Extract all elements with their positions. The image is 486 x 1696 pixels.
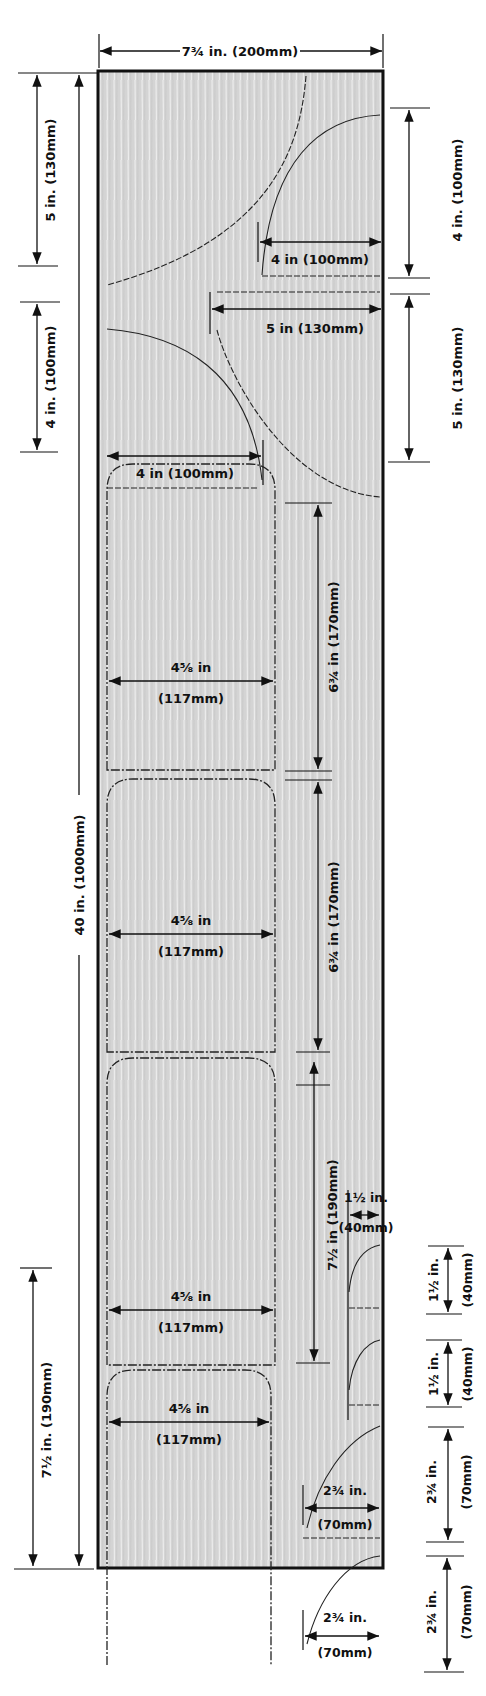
panel-width-top-label: 4⅝ in [171,660,212,675]
panel-width-top-label: 4⅝ in [171,1289,212,1304]
board-width-dimension: 7¾ in. (200mm) [99,34,383,68]
left-dim-5in-label: 5 in. (130mm) [43,119,58,222]
right-dim-medium-1-bottom: (70mm) [459,1455,474,1510]
board-width-label: 7¾ in. (200mm) [182,44,298,59]
right-dim-4in-label: 4 in. (100mm) [450,139,465,242]
panel-width-bottom-label: (117mm) [158,691,224,706]
small-arc-width-top: 1½ in. [344,1190,388,1205]
diagram-canvas: 7¾ in. (200mm) 4 in (100mm) 5 in (130mm)… [0,0,486,1696]
cutting-diagram: 7¾ in. (200mm) 4 in (100mm) 5 in (130mm)… [0,0,486,1696]
right-dimensions: 4 in. (100mm) 5 in. (130mm) 1½ in. (40mm… [388,108,475,1672]
small-arc-width-bottom: (40mm) [339,1220,394,1235]
panel-width-bottom-label: (117mm) [156,1432,222,1447]
panel-width-bottom-label: (117mm) [158,944,224,959]
right-dim-small-2-bottom: (40mm) [460,1347,475,1402]
arc1-radius-label: 4 in (100mm) [271,252,369,267]
left-dim-7-5in-label: 7½ in. (190mm) [39,1362,54,1478]
panel-height-1-label: 6¾ in (170mm) [326,581,341,692]
left-dim-4in-label: 4 in. (100mm) [43,326,58,429]
left-dimensions: 5 in. (130mm) 4 in. (100mm) 40 in. (1000… [14,73,98,1569]
panel-height-2-label: 6¾ in (170mm) [326,861,341,972]
right-dim-medium-1-top: 2¾ in. [424,1460,439,1504]
right-dim-small-2-top: 1½ in. [426,1352,441,1396]
arc2-radius-label: 5 in (130mm) [266,321,364,336]
right-dim-medium-2-top: 2¾ in. [424,1590,439,1634]
board [98,71,383,1568]
medium-arc-1-width-bottom: (70mm) [318,1517,373,1532]
right-dim-5in-label: 5 in. (130mm) [450,327,465,430]
panel-width-top-label: 4⅝ in [171,913,212,928]
medium-arc-2-width-bottom: (70mm) [318,1645,373,1660]
medium-arc-1-width-top: 2¾ in. [323,1483,367,1498]
right-dim-small-1-bottom: (40mm) [460,1253,475,1308]
board-length-label: 40 in. (1000mm) [72,815,87,936]
board-surface [98,71,383,1568]
panel-height-3-label: 7½ in (190mm) [325,1159,340,1270]
panel-width-top-label: 4⅝ in [169,1401,210,1416]
arc3-radius-label: 4 in (100mm) [136,466,234,481]
right-dim-small-1-top: 1½ in. [426,1258,441,1302]
right-dim-medium-2-bottom: (70mm) [459,1585,474,1640]
panel-width-bottom-label: (117mm) [158,1320,224,1335]
medium-arc-2-width-top: 2¾ in. [323,1610,367,1625]
